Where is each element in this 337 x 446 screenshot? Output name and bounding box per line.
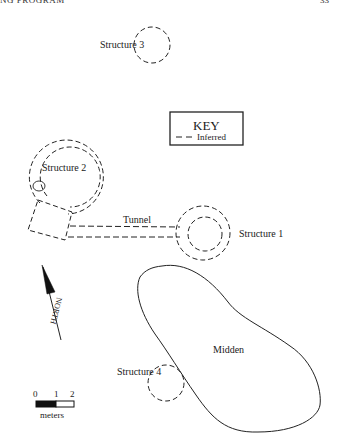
tunnel xyxy=(68,226,180,237)
north-label: NORTH xyxy=(48,297,63,326)
midden-label: Midden xyxy=(213,344,244,355)
structure-2 xyxy=(29,140,103,214)
scale-bar xyxy=(36,401,74,407)
structure-1 xyxy=(176,206,230,260)
structure-1-label: Structure 1 xyxy=(239,228,283,239)
scale-tick-2: 2 xyxy=(70,389,75,399)
site-map-diagram: Structure 3 Structure 2 Tunnel Structure… xyxy=(0,0,337,446)
tunnel-label: Tunnel xyxy=(123,214,151,225)
structure-2-label: Structure 2 xyxy=(42,162,86,173)
structure-4-label: Structure 4 xyxy=(117,366,161,377)
scale-tick-0: 0 xyxy=(33,389,38,399)
scale-unit-label: meters xyxy=(40,410,64,420)
structure-2-entry xyxy=(28,200,72,240)
scale-tick-1: 1 xyxy=(54,389,59,399)
north-arrow-icon xyxy=(42,265,55,294)
key-title: KEY xyxy=(193,118,220,133)
key-inferred-label: Inferred xyxy=(197,132,226,142)
structure-3-label: Structure 3 xyxy=(100,39,144,50)
